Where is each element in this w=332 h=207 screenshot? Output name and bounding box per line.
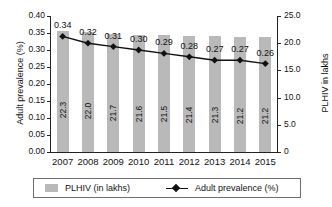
y-axis-right-tick-label: 0: [284, 147, 289, 156]
line-marker-diamond-icon[interactable]: [237, 57, 244, 64]
line-marker-diamond-icon[interactable]: [59, 33, 66, 40]
y-axis-right-tick-label: 5.0: [284, 120, 296, 129]
y-axis-left-title: Adult prevalence (%): [15, 13, 25, 153]
legend-item-adult-prevalence: Adult prevalence (%): [166, 183, 279, 193]
line-marker-diamond-icon[interactable]: [186, 53, 193, 60]
y-axis-left-tick-label: 0.10: [28, 113, 45, 122]
y-axis-left-tick-label: 0.05: [28, 130, 45, 139]
y-axis-right-tick: [278, 152, 281, 153]
line-marker-diamond-icon[interactable]: [161, 50, 168, 57]
chart-container: Adult prevalence (%) PLHIV in lakhs 0.00…: [0, 0, 332, 207]
line-point-label: 0.32: [75, 27, 101, 37]
line-marker-diamond-icon[interactable]: [262, 60, 269, 67]
y-axis-right-title: PLHIV in lakhs: [320, 13, 330, 153]
y-axis-left-tick-label: 0.30: [28, 45, 45, 54]
line-marker-diamond-icon[interactable]: [85, 40, 92, 47]
y-axis-right-tick-label: 10.0: [284, 93, 301, 102]
y-axis-right-tick: [278, 16, 281, 17]
line-point-label: 0.27: [227, 44, 253, 54]
line-point-label: 0.34: [50, 20, 76, 30]
y-axis-left-tick-label: 0.15: [28, 96, 45, 105]
line-marker-diamond-icon[interactable]: [211, 57, 218, 64]
y-axis-left-tick-label: 0.25: [28, 62, 45, 71]
plot-area: 0.000.050.100.150.200.250.300.350.40 05.…: [50, 16, 278, 152]
line-point-label: 0.29: [151, 37, 177, 47]
line-point-label: 0.30: [126, 34, 152, 44]
y-axis-left-tick-label: 0.35: [28, 28, 45, 37]
y-axis-right-tick-label: 25.0: [284, 11, 301, 20]
line-marker-diamond-icon[interactable]: [110, 43, 117, 50]
y-axis-right-tick-label: 15.0: [284, 65, 301, 74]
line-point-label: 0.31: [100, 31, 126, 41]
line-point-label: 0.27: [202, 44, 228, 54]
legend-line-label: Adult prevalence (%): [195, 183, 279, 193]
line-point-label: 0.28: [176, 41, 202, 51]
line-marker-diamond-icon[interactable]: [135, 47, 142, 54]
y-axis-right-tick: [278, 125, 281, 126]
y-axis-right-tick: [278, 43, 281, 44]
y-axis-left-tick-label: 0.40: [28, 11, 45, 20]
legend-bar-label: PLHIV (in lakhs): [65, 183, 130, 193]
legend-bar-swatch-icon: [45, 184, 58, 192]
y-axis-right-tick: [278, 98, 281, 99]
y-axis-right-tick: [278, 70, 281, 71]
chart-legend: PLHIV (in lakhs) Adult prevalence (%): [33, 178, 301, 198]
y-axis-right-tick-label: 20.0: [284, 38, 301, 47]
legend-item-plhiv: PLHIV (in lakhs): [45, 183, 130, 193]
x-axis-label: 2015: [250, 156, 280, 167]
y-axis-left-tick-label: 0.00: [28, 147, 45, 156]
legend-line-diamond-icon: [166, 184, 188, 193]
line-point-label: 0.26: [252, 48, 278, 58]
y-axis-left-tick-label: 0.20: [28, 79, 45, 88]
